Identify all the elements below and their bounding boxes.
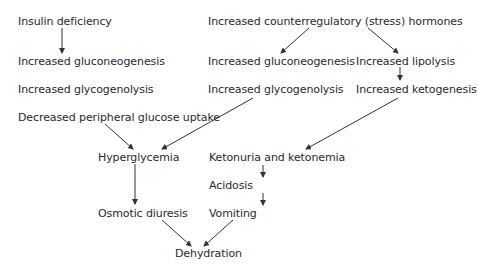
arrow-ketogenesis-to-ketonuria [306, 98, 398, 149]
node-lipolysis: Increased lipolysis [356, 55, 455, 68]
arrow-vomiting-to-dehydration [204, 220, 233, 246]
node-insulin-deficiency: Insulin deficiency [18, 15, 112, 28]
node-ketogenesis: Increased ketogenesis [356, 83, 477, 96]
node-decreased-glucose-uptake: Decreased peripheral glucose uptake [18, 111, 220, 124]
node-counterregulatory-hormones: Increased counterregulatory (stress) hor… [208, 15, 463, 28]
node-dehydration: Dehydration [175, 247, 242, 260]
node-glycogenolysis-right: Increased glycogenolysis [208, 83, 344, 96]
arrow-hormones-to-gluconeogenesis [281, 28, 309, 53]
node-acidosis: Acidosis [209, 179, 253, 192]
node-glycogenolysis-left: Increased glycogenolysis [18, 83, 154, 96]
node-gluconeogenesis-right: Increased gluconeogenesis [208, 55, 355, 68]
arrow-osmotic-to-dehydration [162, 220, 191, 246]
node-ketonuria-ketonemia: Ketonuria and ketonemia [209, 151, 345, 164]
arrow-uptake-to-hyperglycemia [105, 124, 133, 149]
node-vomiting: Vomiting [209, 207, 257, 220]
node-hyperglycemia: Hyperglycemia [98, 151, 179, 164]
node-osmotic-diuresis: Osmotic diuresis [98, 207, 188, 220]
arrow-hormones-to-lipolysis [368, 28, 398, 53]
node-gluconeogenesis-left: Increased gluconeogenesis [18, 55, 165, 68]
